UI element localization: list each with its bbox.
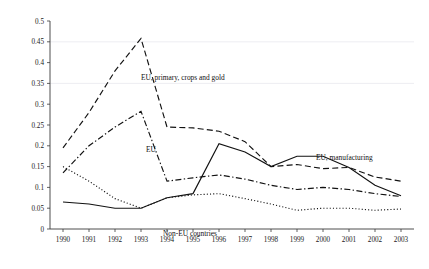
line-chart: 00.050.10.150.20.250.30.350.40.450.5 199…: [0, 0, 429, 269]
x-tick-label: 2002: [368, 236, 383, 244]
y-axis: 00.050.10.150.20.250.30.350.40.450.5: [31, 18, 50, 234]
y-tick-label: 0.25: [31, 122, 44, 130]
series-line-non-eu-countries: [63, 167, 401, 211]
series-annotation-group: EU, primary, crops and goldEUEU, manufac…: [141, 73, 373, 238]
series-annotation: Non-EU countries: [163, 229, 217, 238]
y-tick-label: 0.4: [35, 59, 44, 67]
x-tick-label: 1992: [108, 236, 123, 244]
y-tick-label: 0.05: [31, 205, 44, 213]
data-series-group: [63, 38, 401, 210]
x-tick-label: 1991: [82, 236, 97, 244]
x-tick-label: 2000: [316, 236, 331, 244]
series-annotation: EU: [146, 145, 157, 154]
chart-plot-area: 00.050.10.150.20.250.30.350.40.450.5 199…: [0, 0, 429, 269]
series-annotation: EU, primary, crops and gold: [141, 73, 225, 82]
x-tick-label: 1990: [56, 236, 71, 244]
y-tick-label: 0.45: [31, 38, 44, 46]
x-tick-label: 2003: [394, 236, 409, 244]
y-tick-label: 0.15: [31, 163, 44, 171]
y-tick-label: 0.1: [35, 184, 44, 192]
x-tick-label: 1997: [238, 236, 253, 244]
x-tick-label: 1993: [134, 236, 149, 244]
x-tick-label: 1998: [264, 236, 279, 244]
y-tick-label: 0.5: [35, 18, 44, 26]
x-axis: 1990199119921993199419951996199719981999…: [50, 229, 414, 244]
y-tick-label: 0.35: [31, 80, 44, 88]
y-tick-label: 0.2: [35, 142, 44, 150]
y-tick-label: 0: [40, 226, 44, 234]
x-tick-label: 2001: [342, 236, 357, 244]
x-tick-label: 1999: [290, 236, 305, 244]
series-annotation: EU, manufacturing: [316, 153, 373, 162]
y-tick-label: 0.3: [35, 101, 44, 109]
gridline-group: [50, 42, 414, 84]
